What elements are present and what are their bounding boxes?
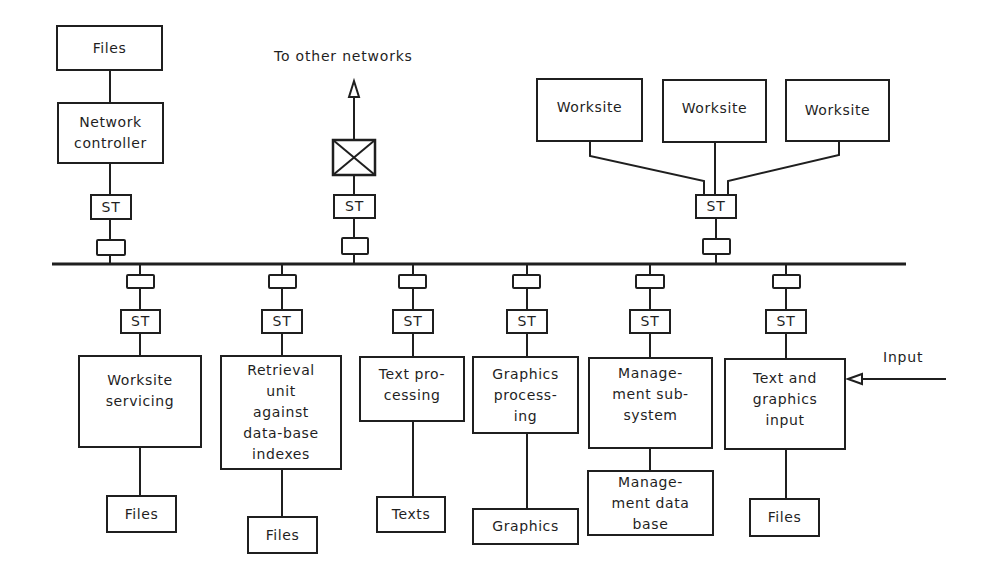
bus-connector-network-controller	[96, 239, 126, 256]
arrow-left-icon	[848, 374, 862, 384]
box-label: Graphics	[492, 364, 559, 385]
station-col1: ST	[120, 309, 161, 334]
files-storage-1: Files	[106, 495, 177, 533]
box-label: Text and	[753, 368, 817, 389]
station-gateway: ST	[333, 194, 376, 219]
graphics-processing-box: Graphics process- ing	[472, 356, 579, 434]
text-graphics-input-box: Text and graphics input	[724, 358, 846, 450]
box-label: servicing	[106, 391, 175, 412]
box-label: input	[765, 410, 804, 431]
gateway-icon	[333, 140, 375, 175]
box-label: Retrieval	[247, 360, 315, 381]
st-label: ST	[706, 196, 725, 217]
files-top-box: Files	[56, 25, 163, 71]
st-label: ST	[517, 311, 536, 332]
bus-connector-col3	[398, 274, 427, 289]
box-label: cessing	[384, 385, 441, 406]
bus-connector-col2	[268, 274, 297, 289]
st-label: ST	[403, 311, 422, 332]
to-other-networks-label: To other networks	[274, 48, 413, 64]
graphics-storage: Graphics	[472, 508, 579, 545]
bus-connector-gateway	[341, 237, 369, 255]
box-label: ment data	[612, 493, 690, 514]
network-controller-box: Network controller	[57, 102, 164, 164]
station-network-controller: ST	[90, 194, 132, 220]
box-label: ment sub-	[612, 384, 689, 405]
st-label: ST	[131, 311, 150, 332]
box-label: against	[253, 402, 309, 423]
box-label: base	[633, 514, 669, 535]
box-label: Files	[768, 507, 802, 528]
management-subsystem-box: Manage- ment sub- system	[588, 357, 713, 449]
retrieval-unit-box: Retrieval unit against data-base indexes	[220, 355, 342, 470]
station-worksites: ST	[695, 194, 737, 219]
box-label: Texts	[392, 504, 431, 525]
bus-connector-col4	[512, 274, 541, 289]
worksite-servicing-box: Worksite servicing	[78, 355, 202, 448]
box-label: data-base	[243, 423, 318, 444]
worksite-label: Worksite	[805, 100, 871, 121]
st-label: ST	[345, 196, 364, 217]
bus-connector-worksites	[702, 238, 731, 255]
box-label: Manage-	[618, 472, 683, 493]
st-label: ST	[640, 311, 659, 332]
box-label: Graphics	[492, 516, 559, 537]
worksite-label: Worksite	[682, 98, 748, 119]
texts-storage: Texts	[376, 496, 446, 533]
input-label: Input	[883, 349, 923, 365]
station-col6: ST	[765, 309, 807, 334]
st-label: ST	[101, 197, 120, 218]
worksite-box-1: Worksite	[536, 78, 643, 142]
worksite-box-2: Worksite	[662, 79, 767, 143]
box-label: indexes	[252, 444, 310, 465]
box-label: process-	[494, 385, 558, 406]
files-storage-3: Files	[749, 498, 820, 537]
box-label: graphics	[753, 389, 818, 410]
box-label: Worksite	[107, 370, 173, 391]
station-col2: ST	[261, 309, 303, 334]
st-label: ST	[272, 311, 291, 332]
network-controller-label-1: Network	[79, 112, 142, 133]
worksite-label: Worksite	[557, 97, 623, 118]
box-label: ing	[514, 406, 537, 427]
box-label: Manage-	[618, 363, 683, 384]
files-top-label: Files	[93, 38, 127, 59]
box-label: system	[623, 405, 677, 426]
box-label: Files	[125, 504, 159, 525]
management-database-box: Manage- ment data base	[587, 470, 714, 536]
worksite-box-3: Worksite	[785, 79, 890, 142]
box-label: Files	[266, 525, 300, 546]
st-label: ST	[776, 311, 795, 332]
bus-connector-col6	[772, 274, 801, 289]
text-processing-box: Text pro- cessing	[359, 356, 465, 422]
network-diagram: Files Network controller ST To other net…	[0, 0, 996, 584]
network-controller-label-2: controller	[74, 133, 147, 154]
bus-connector-col1	[126, 274, 155, 289]
station-col5: ST	[629, 309, 671, 334]
station-col3: ST	[392, 309, 434, 334]
box-label: Text pro-	[379, 364, 445, 385]
arrow-up-icon	[349, 81, 359, 97]
bus-connector-col5	[635, 274, 665, 289]
box-label: unit	[266, 381, 296, 402]
files-storage-2: Files	[247, 516, 318, 554]
station-col4: ST	[506, 309, 548, 334]
